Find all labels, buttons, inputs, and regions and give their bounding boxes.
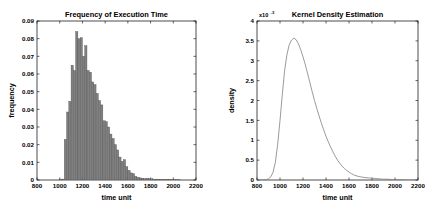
x-tick-label: 1400 xyxy=(98,182,112,189)
histogram-bar xyxy=(107,127,109,180)
histogram-bar xyxy=(123,160,125,180)
histogram-bar xyxy=(73,70,75,180)
histogram-bar xyxy=(151,179,153,180)
histogram-bar xyxy=(119,157,121,180)
histogram-bar xyxy=(89,72,91,180)
histogram-bar xyxy=(110,134,112,180)
histogram-bar xyxy=(105,122,107,180)
series-group xyxy=(60,32,180,181)
y-tick-label: 2 xyxy=(251,97,255,104)
y-tick-label: 0.04 xyxy=(22,106,35,113)
axes-frame xyxy=(257,21,418,180)
x-tick-label: 2200 xyxy=(411,182,425,189)
histogram-bar xyxy=(162,179,164,180)
y-tick-label: 1 xyxy=(251,136,255,143)
y-tick-label: 0.01 xyxy=(22,159,35,166)
histogram-svg: 800100012001400160018002000220000.010.02… xyxy=(0,0,220,218)
histogram-bar xyxy=(128,170,130,180)
x-tick-label: 1200 xyxy=(296,182,310,189)
histogram-bar xyxy=(87,70,89,180)
plot-area xyxy=(257,21,418,180)
y-exponent-label: x10 xyxy=(259,12,268,18)
histogram-bar xyxy=(60,179,62,180)
histogram-bar xyxy=(78,39,80,180)
y-tick-label: 2.5 xyxy=(245,77,254,84)
x-tick-label: 1200 xyxy=(76,182,90,189)
x-tick-label: 1800 xyxy=(365,182,379,189)
y-tick-label: 0.07 xyxy=(22,53,35,60)
y-tick-label: 0.06 xyxy=(22,70,35,77)
y-tick-label: 0.03 xyxy=(22,123,35,130)
histogram-bar xyxy=(148,179,150,180)
histogram-bar xyxy=(85,46,87,180)
x-tick-label: 1800 xyxy=(144,182,158,189)
y-tick-label: 0 xyxy=(31,176,35,183)
plot-title: Kernel Density Estimation xyxy=(292,10,384,19)
y-exponent-power: -3 xyxy=(271,10,275,15)
histogram-bar xyxy=(139,178,141,180)
histogram-bar xyxy=(132,174,134,180)
series-group xyxy=(257,38,418,180)
histogram-bar xyxy=(64,139,66,180)
x-tick-label: 2000 xyxy=(388,182,402,189)
histogram-bar xyxy=(94,85,96,180)
histogram-bar xyxy=(92,82,94,180)
x-tick-label: 2000 xyxy=(166,182,180,189)
x-axis-label: time unit xyxy=(323,193,354,202)
histogram-bar xyxy=(82,56,84,180)
y-axis-label: frequency xyxy=(7,83,16,117)
histogram-bar xyxy=(160,179,162,180)
histogram-bar xyxy=(144,179,146,180)
histogram-bar xyxy=(96,93,98,180)
histogram-bar xyxy=(126,167,128,180)
histogram-bar xyxy=(121,161,123,180)
y-tick-label: 0 xyxy=(251,176,255,183)
y-tick-label: 0.05 xyxy=(22,88,35,95)
x-tick-label: 1600 xyxy=(342,182,356,189)
y-tick-label: 3.5 xyxy=(245,37,254,44)
kde-panel: 800100012001400160018002000220000.511.52… xyxy=(220,0,441,218)
histogram-bar xyxy=(141,178,143,180)
plot-title: Frequency of Execution Time xyxy=(65,10,168,19)
histogram-bar xyxy=(80,38,82,180)
y-tick-label: 0.09 xyxy=(22,17,35,24)
x-tick-label: 1400 xyxy=(319,182,333,189)
histogram-bar xyxy=(103,121,105,180)
y-tick-label: 3 xyxy=(251,57,255,64)
x-tick-label: 1000 xyxy=(53,182,67,189)
histogram-bar xyxy=(112,138,114,180)
kde-curve xyxy=(257,38,418,180)
histogram-bar xyxy=(146,178,148,180)
histogram-bar xyxy=(157,179,159,180)
x-axis-label: time unit xyxy=(102,193,133,202)
y-tick-label: 0.08 xyxy=(22,35,35,42)
histogram-bar xyxy=(130,173,132,180)
histogram-bar xyxy=(101,105,103,180)
histogram-bar xyxy=(76,32,78,180)
histogram-bar xyxy=(135,176,137,180)
y-tick-label: 0.5 xyxy=(245,156,254,163)
histogram-bar xyxy=(71,65,73,180)
histogram-bar xyxy=(155,179,157,180)
y-tick-label: 4 xyxy=(251,17,255,24)
histogram-bar xyxy=(62,179,64,180)
histogram-bar xyxy=(67,112,69,180)
histogram-bar xyxy=(153,179,155,180)
histogram-bar xyxy=(98,101,100,181)
histogram-panel: 800100012001400160018002000220000.010.02… xyxy=(0,0,220,218)
histogram-bar xyxy=(137,177,139,180)
x-tick-label: 1600 xyxy=(121,182,135,189)
x-tick-label: 2200 xyxy=(189,182,203,189)
x-tick-label: 1000 xyxy=(273,182,287,189)
histogram-bar xyxy=(117,150,119,180)
y-axis-label: density xyxy=(227,88,236,113)
y-tick-label: 1.5 xyxy=(245,117,254,124)
plot-area xyxy=(37,21,196,180)
y-tick-label: 0.02 xyxy=(22,141,35,148)
figure-container: 800100012001400160018002000220000.010.02… xyxy=(0,0,441,218)
histogram-bar xyxy=(114,145,116,180)
histogram-bar xyxy=(69,101,71,180)
kde-svg: 800100012001400160018002000220000.511.52… xyxy=(220,0,441,218)
